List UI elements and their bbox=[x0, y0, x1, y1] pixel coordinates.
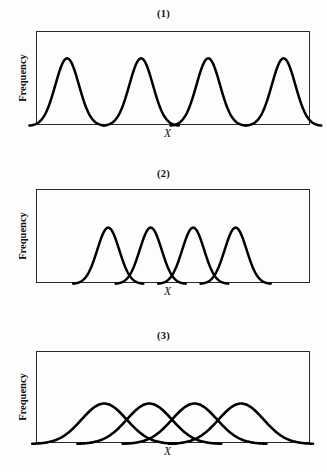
panel-1-ylabel: Frequency bbox=[17, 35, 31, 121]
panel-3-plot-box bbox=[36, 351, 310, 443]
curve-mode-2 bbox=[116, 228, 186, 284]
curve-mode-4 bbox=[246, 58, 321, 125]
curve-mode-3 bbox=[158, 228, 228, 284]
curve-mode-2 bbox=[103, 58, 178, 125]
panel-2-label: (2) bbox=[0, 168, 327, 179]
panel-3-label: (3) bbox=[0, 330, 327, 341]
panel-1-label: (1) bbox=[0, 8, 327, 19]
panel-2-plot-box bbox=[36, 189, 310, 283]
panel-3-ylabel: Frequency bbox=[17, 354, 31, 440]
curve-mode-3 bbox=[171, 58, 246, 125]
curve-mode-1 bbox=[73, 228, 143, 284]
panel-2-curves bbox=[37, 190, 311, 284]
figure-root: (1) Frequency X (2) Frequency X (3) Freq… bbox=[0, 0, 327, 472]
panel-1-plot-box bbox=[36, 31, 310, 125]
curve-mode-4 bbox=[201, 228, 271, 284]
panel-2-ylabel: Frequency bbox=[17, 193, 31, 279]
curve-mode-1 bbox=[29, 58, 104, 125]
panel-1-curves bbox=[37, 32, 311, 126]
panel-1-xlabel: X bbox=[148, 127, 188, 139]
panel-2-xlabel: X bbox=[148, 285, 188, 297]
panel-3-xlabel: X bbox=[148, 445, 188, 457]
panel-3-curves bbox=[37, 352, 311, 444]
